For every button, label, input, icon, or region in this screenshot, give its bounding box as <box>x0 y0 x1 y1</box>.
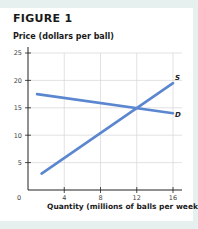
x-tick-label: 4 <box>62 194 66 202</box>
y-tick-label: 5 <box>18 159 22 167</box>
x-tick-label: 16 <box>169 194 177 202</box>
y-tick-label: 20 <box>14 77 22 85</box>
supply-label: S <box>175 74 180 82</box>
y-tick-label: 15 <box>14 104 22 112</box>
supply-demand-chart: 5101520250481216SD <box>0 0 198 229</box>
y-tick-label: 10 <box>14 132 22 140</box>
x-tick-label: 8 <box>98 194 102 202</box>
x-tick-label: 12 <box>133 194 141 202</box>
x-tick-label: 0 <box>17 194 21 202</box>
demand-label: D <box>175 111 181 119</box>
y-tick-label: 25 <box>14 49 22 57</box>
